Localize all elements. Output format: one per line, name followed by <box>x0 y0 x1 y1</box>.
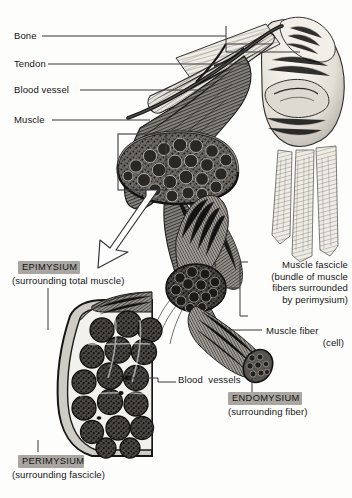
label-muscle: Muscle <box>14 114 45 126</box>
label-perimysium: PERIMYSIUM <box>22 456 84 468</box>
label-blood-vessels: Blood vessels <box>178 374 241 386</box>
label-epimysium: EPIMYSIUM <box>22 262 77 274</box>
label-muscle-fiber-sub: (cell) <box>266 337 344 349</box>
magnified-cross-section <box>58 292 162 458</box>
anatomy-illustration <box>0 0 352 498</box>
muscle-cross-section <box>118 132 238 204</box>
fascicle-cut-face <box>166 264 226 313</box>
label-endomysium-sub: (surrounding fiber) <box>228 406 308 418</box>
label-endomysium: ENDOMYSIUM <box>232 393 300 405</box>
label-epimysium-sub: (surrounding total muscle) <box>12 275 124 287</box>
label-perimysium-sub: (surrounding fascicle) <box>12 469 105 481</box>
label-muscle-fiber: Muscle fiber <box>266 325 318 337</box>
muscle-anatomy-figure: Bone Tendon Blood vessel Muscle EPIMYSIU… <box>0 0 352 498</box>
label-blood-vessel: Blood vessel <box>14 84 69 96</box>
label-bone: Bone <box>14 30 37 42</box>
label-tendon: Tendon <box>14 58 46 70</box>
label-muscle-fascicle: Muscle fascicle (bundle of muscle fibers… <box>236 259 348 305</box>
